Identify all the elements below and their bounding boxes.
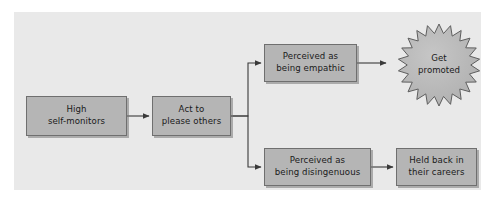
node-perceived-as-being-empathic: Perceived as being empathic	[264, 44, 357, 82]
node-high-self-monitors: High self-monitors	[26, 96, 127, 136]
node-held-back-in-their-careers: Held back in their careers	[396, 148, 477, 186]
node-perceived-as-being-disingenuous: Perceived as being disingenuous	[264, 148, 371, 186]
connector-act-to-please-others-to-perceived-as-being-empathic	[231, 63, 261, 116]
connector-act-to-please-others-to-perceived-as-being-disingenuous	[231, 116, 261, 167]
get-promoted-starburst	[398, 24, 479, 106]
node-act-to-please-others: Act to please others	[152, 96, 231, 136]
flowchart-canvas: High self-monitors Act to please others …	[0, 0, 495, 206]
